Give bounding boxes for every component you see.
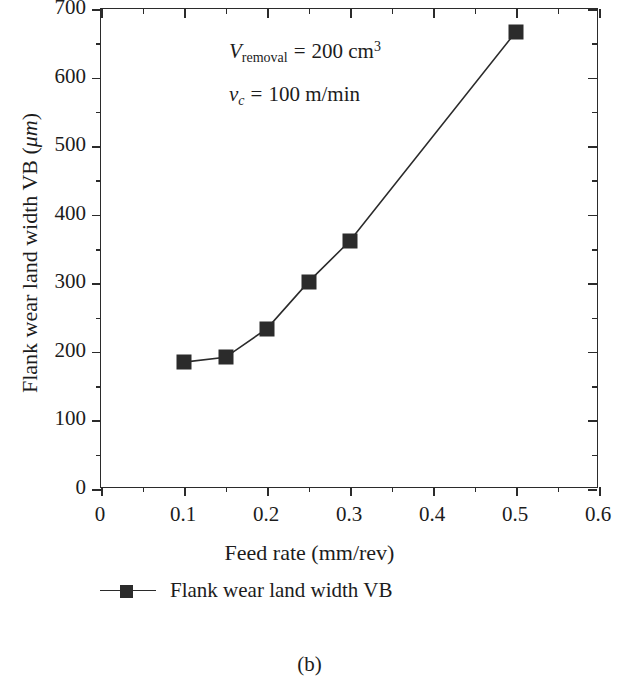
y-tick-label-100: 100	[55, 408, 87, 429]
x-tick-label-0.3: 0.3	[336, 504, 362, 525]
x-tick-label-0: 0	[95, 504, 106, 525]
y-tick-0	[92, 489, 101, 491]
x-axis-title: Feed rate (mm/rev)	[0, 540, 619, 566]
y-tick-100	[92, 420, 101, 422]
legend-square-marker-icon	[120, 585, 133, 598]
y-axis-title: Flank wear land width VB (μm)	[17, 18, 43, 488]
legend-swatch	[100, 582, 156, 600]
y-tick-label-0: 0	[76, 477, 87, 498]
y-axis-title-mu: μm	[17, 120, 42, 147]
y-tick-right-0	[588, 489, 597, 491]
x-tick-label-0.2: 0.2	[253, 504, 279, 525]
series-line	[101, 9, 599, 489]
y-tick-300	[92, 283, 101, 285]
y-tick-label-600: 600	[55, 66, 87, 87]
figure-panel-b: Flank wear land width VB (μm) Vremoval=2…	[0, 0, 619, 687]
x-tick-0.6	[599, 487, 601, 496]
y-tick-label-500: 500	[55, 134, 87, 155]
y-tick-label-300: 300	[55, 271, 87, 292]
x-tick-label-0.6: 0.6	[585, 504, 611, 525]
y-tick-label-400: 400	[55, 203, 87, 224]
y-axis-title-text: Flank wear land width VB (	[17, 147, 42, 393]
plot-area: Vremoval=200 cm3 vc=100 m/min	[100, 8, 598, 488]
y-tick-700	[92, 9, 101, 11]
chart-legend: Flank wear land width VB	[100, 578, 392, 603]
y-tick-400	[92, 215, 101, 217]
y-axis-title-close: )	[17, 113, 42, 120]
y-tick-600	[92, 78, 101, 80]
x-tick-top-0.6	[599, 9, 601, 18]
figure-caption: (b)	[0, 652, 619, 677]
x-tick-label-0.4: 0.4	[419, 504, 445, 525]
y-tick-500	[92, 146, 101, 148]
x-tick-label-0.1: 0.1	[170, 504, 196, 525]
y-tick-label-700: 700	[55, 0, 87, 18]
y-tick-200	[92, 352, 101, 354]
legend-label: Flank wear land width VB	[170, 578, 392, 603]
y-tick-label-200: 200	[55, 340, 87, 361]
x-tick-label-0.5: 0.5	[502, 504, 528, 525]
